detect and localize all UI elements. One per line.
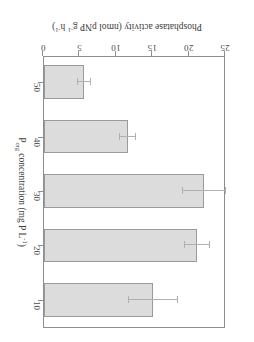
category-tick-label: 50 bbox=[32, 83, 42, 92]
rotated-figure: 0510152025 1020304050 Phosphatase activi… bbox=[0, 0, 254, 342]
category-tick-label: 40 bbox=[32, 138, 42, 147]
category-axis-title-rest: concentration (mg P L bbox=[17, 151, 27, 238]
value-axis-title: Phosphatase activity (nmol pNP g-1 h-1) bbox=[0, 22, 254, 34]
error-bar bbox=[119, 136, 136, 137]
error-bar bbox=[182, 190, 226, 191]
category-axis-title: Porg concentration (mg P L-1) bbox=[15, 137, 29, 247]
plot-area bbox=[43, 56, 225, 328]
value-axis-title-lead: Phosphatase activity (nmol pNP g bbox=[73, 22, 202, 32]
value-tick-label: 20 bbox=[174, 43, 204, 53]
bar-chart: 0510152025 1020304050 Phosphatase activi… bbox=[0, 0, 254, 342]
bar bbox=[44, 174, 204, 208]
error-bar bbox=[77, 81, 90, 82]
error-bar-cap-low bbox=[209, 241, 210, 248]
value-axis-title-close: ) bbox=[52, 22, 55, 32]
value-tick-label: 10 bbox=[101, 43, 131, 53]
error-bar-cap-high bbox=[184, 241, 185, 248]
error-bar bbox=[128, 299, 178, 300]
error-bar-cap-low bbox=[225, 187, 226, 194]
value-tick-label: 15 bbox=[137, 43, 167, 53]
bar-row bbox=[44, 174, 226, 208]
category-tick-label: 30 bbox=[32, 192, 42, 201]
error-bar-cap-low bbox=[177, 296, 178, 303]
error-bar-cap-low bbox=[135, 133, 136, 140]
value-tick-label: 0 bbox=[28, 43, 58, 53]
bar bbox=[44, 229, 197, 263]
bar-row bbox=[44, 65, 226, 99]
error-bar-cap-high bbox=[182, 187, 183, 194]
value-tick-label: 5 bbox=[64, 43, 94, 53]
bar-row bbox=[44, 120, 226, 154]
figure-container: 0510152025 1020304050 Phosphatase activi… bbox=[0, 0, 254, 342]
error-bar-cap-high bbox=[77, 78, 78, 85]
value-axis-exp-2: -1 bbox=[55, 27, 60, 34]
value-axis-title-mid: h bbox=[61, 22, 68, 32]
error-bar-cap-high bbox=[128, 296, 129, 303]
bar-row bbox=[44, 229, 226, 263]
category-tick-label: 20 bbox=[32, 246, 42, 255]
value-tick-label: 25 bbox=[210, 43, 240, 53]
error-bar-cap-high bbox=[119, 133, 120, 140]
category-tick-label: 10 bbox=[32, 301, 42, 310]
category-axis-title-close: ) bbox=[17, 244, 27, 247]
bar-row bbox=[44, 283, 226, 317]
error-bar-cap-low bbox=[90, 78, 91, 85]
bar bbox=[44, 283, 153, 317]
value-axis-exp-1: -1 bbox=[68, 27, 73, 34]
category-axis-title-sub: org bbox=[15, 142, 22, 151]
error-bar bbox=[184, 244, 210, 245]
bar bbox=[44, 120, 128, 154]
